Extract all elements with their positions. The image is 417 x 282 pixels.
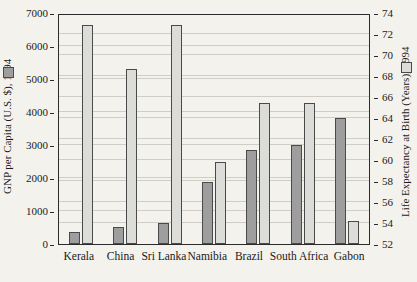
y-axis-right-tickmark <box>374 161 378 162</box>
y-axis-right-tickmark <box>374 182 378 183</box>
bar-gnp <box>335 118 346 244</box>
y-axis-right-tick-label: 54 <box>382 218 393 229</box>
bar-group <box>192 15 236 244</box>
y-axis-left-tick-label: 7000 <box>26 8 48 19</box>
bar-group <box>280 15 324 244</box>
plot-area <box>58 14 370 245</box>
x-axis-category-label: Namibia <box>186 250 228 262</box>
x-axis-category-label: Gabon <box>328 250 370 262</box>
x-axis-category-label: China <box>100 250 142 262</box>
y-axis-right-tickmark <box>374 56 378 57</box>
y-axis-right-tick-label: 60 <box>382 155 393 166</box>
y-axis-right-tick-label: 56 <box>382 197 393 208</box>
x-axis-category-label: Sri Lanka <box>141 250 186 262</box>
bar-gnp <box>202 182 213 244</box>
y-axis-right-tickmark <box>374 140 378 141</box>
bar-gnp <box>158 223 169 244</box>
y-axis-left-tick-label: 5000 <box>26 74 48 85</box>
bar-group <box>103 15 147 244</box>
y-axis-left-tickmark <box>50 14 54 15</box>
x-axis-category-label: South Africa <box>270 250 328 262</box>
y-axis-left-tickmark <box>50 245 54 246</box>
bar-life-expectancy <box>171 25 182 244</box>
y-axis-right-tick-label: 68 <box>382 71 393 82</box>
y-axis-left-tickmark <box>50 80 54 81</box>
y-axis-right-tick-label: 74 <box>382 8 393 19</box>
y-axis-left-tick-label: 0 <box>43 239 49 250</box>
y-axis-left-tickmark <box>50 113 54 114</box>
bar-life-expectancy <box>215 162 226 244</box>
y-axis-left-tick-label: 6000 <box>26 41 48 52</box>
bar-life-expectancy <box>348 221 359 244</box>
y-axis-left-tick-label: 4000 <box>26 107 48 118</box>
bar-group <box>148 15 192 244</box>
y-axis-right-tickmark <box>374 119 378 120</box>
bar-gnp <box>113 227 124 244</box>
y-axis-left-tick-label: 2000 <box>26 173 48 184</box>
bar-life-expectancy <box>82 25 93 244</box>
y-axis-right-tickmark <box>374 245 378 246</box>
y-axis-left-tickmark <box>50 146 54 147</box>
bar-life-expectancy <box>259 103 270 244</box>
y-axis-right-tick-label: 64 <box>382 113 393 124</box>
y-axis-right-tickmark <box>374 14 378 15</box>
y-axis-right-tick-label: 70 <box>382 50 393 61</box>
y-axis-right-tickmark <box>374 35 378 36</box>
bar-gnp <box>69 232 80 244</box>
y-axis-right-tick-label: 66 <box>382 92 393 103</box>
y-axis-right-tickmark <box>374 77 378 78</box>
x-axis-category-label: Kerala <box>58 250 100 262</box>
bar-gnp <box>291 145 302 244</box>
y-axis-right-tickmark <box>374 203 378 204</box>
y-axis-left-tick-label: 1000 <box>26 206 48 217</box>
y-axis-right-tick-label: 52 <box>382 239 393 250</box>
y-axis-left-tickmark <box>50 47 54 48</box>
bar-groups <box>59 15 369 244</box>
bar-group <box>325 15 369 244</box>
bar-group <box>59 15 103 244</box>
y-axis-right-tick-label: 58 <box>382 176 393 187</box>
bar-group <box>236 15 280 244</box>
y-axis-left-ticks: 01000200030004000500060007000 <box>0 0 54 282</box>
y-axis-left-tick-label: 3000 <box>26 140 48 151</box>
x-axis-category-labels: KeralaChinaSri LankaNamibiaBrazilSouth A… <box>58 250 370 262</box>
bar-gnp <box>246 150 257 244</box>
x-axis-category-label: Brazil <box>228 250 270 262</box>
y-axis-right-tickmark <box>374 98 378 99</box>
y-axis-right-ticks: 525456586062646668707274 <box>374 0 414 282</box>
y-axis-right-tick-label: 72 <box>382 29 393 40</box>
chart-figure: GNP per Capita (U.S. $), 1994 Life Expec… <box>0 0 417 282</box>
y-axis-left-tickmark <box>50 212 54 213</box>
y-axis-right-tick-label: 62 <box>382 134 393 145</box>
bar-life-expectancy <box>126 69 137 244</box>
y-axis-right-tickmark <box>374 224 378 225</box>
y-axis-left-tickmark <box>50 179 54 180</box>
bar-life-expectancy <box>304 103 315 244</box>
